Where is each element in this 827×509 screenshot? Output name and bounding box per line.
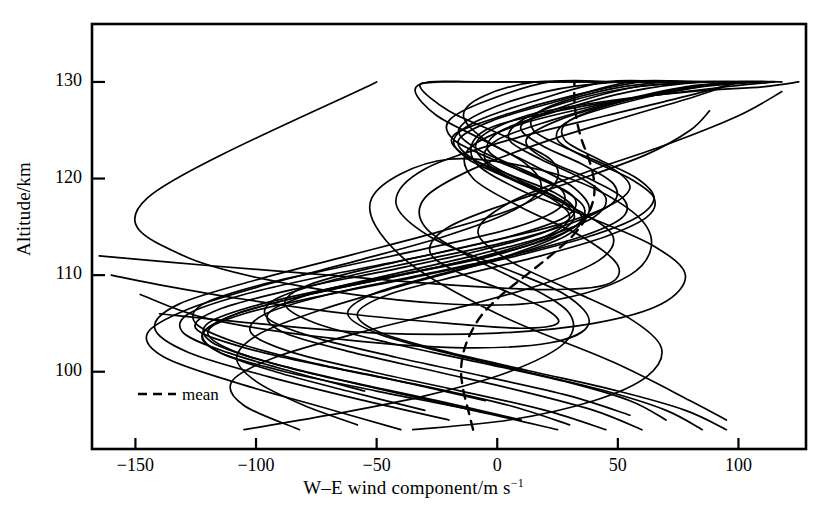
y-axis-label: Altitude/km <box>13 139 35 279</box>
y-tick-label: 110 <box>22 263 82 284</box>
x-tick-label: 100 <box>698 455 778 476</box>
x-tick-label: −100 <box>216 455 296 476</box>
x-tick-label: 50 <box>578 455 658 476</box>
x-axis-label: W–E wind component/m s−1 <box>0 476 827 499</box>
y-tick-label: 100 <box>22 360 82 381</box>
figure-container: Altitude/km W–E wind component/m s−1 mea… <box>0 0 827 509</box>
wind-profile-curves <box>99 81 799 430</box>
y-tick-label: 130 <box>22 70 82 91</box>
x-tick-label: −150 <box>95 455 175 476</box>
x-tick-label: −50 <box>337 455 417 476</box>
wind-profile-curve <box>357 82 762 430</box>
x-axis-label-exponent: −1 <box>511 476 524 490</box>
x-tick-label: 0 <box>457 455 537 476</box>
x-axis-label-main: W–E wind component/m s <box>303 477 511 498</box>
chart-plot-area <box>0 0 827 509</box>
y-tick-label: 120 <box>22 167 82 188</box>
legend-label: mean <box>182 385 219 405</box>
